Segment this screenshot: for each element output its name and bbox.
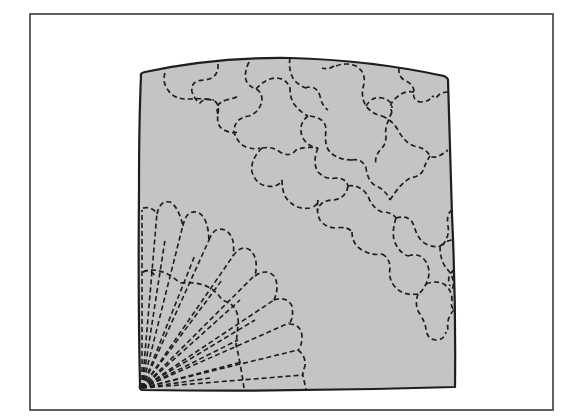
quilt-diagram [0, 0, 569, 420]
fabric-square [139, 58, 456, 391]
